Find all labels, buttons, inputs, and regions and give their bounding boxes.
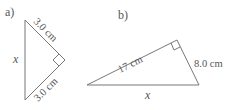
figure-a: a) 3.0 cm 3.0 cm x (5, 5, 65, 103)
diagram-canvas: a) 3.0 cm 3.0 cm x b) 17 cm 8.0 cm x (0, 0, 231, 110)
hypotenuse-label-b: 17 cm (116, 53, 144, 74)
side-label-a-top: 3.0 cm (32, 16, 60, 44)
figure-a-label: a) (5, 5, 14, 19)
base-label-b: x (144, 88, 151, 102)
side-label-b-right: 8.0 cm (194, 58, 223, 69)
right-angle-marker-a (53, 54, 59, 66)
hypotenuse-label-a: x (12, 52, 19, 66)
figure-b: b) 17 cm 8.0 cm x (87, 8, 223, 102)
figure-b-label: b) (118, 8, 128, 22)
